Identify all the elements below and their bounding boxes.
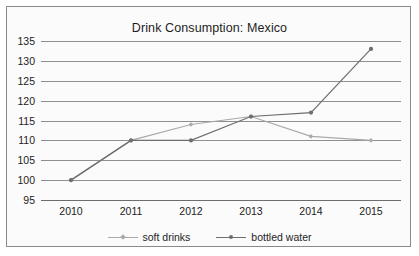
legend-label: bottled water [251,231,311,243]
x-tick-label: 2012 [179,205,202,217]
data-point [369,138,374,143]
data-point [129,138,133,142]
y-tick-label: 105 [17,154,35,166]
x-axis-line [41,200,401,201]
y-tick-label: 100 [17,174,35,186]
chart-title: Drink Consumption: Mexico [7,21,412,35]
data-point [309,134,314,139]
legend-swatch-icon [108,233,138,242]
data-point [189,122,194,127]
x-tick-label: 2013 [239,205,262,217]
chart-legend: soft drinksbottled water [7,231,412,243]
y-tick-label: 135 [17,35,35,47]
y-tick-label: 110 [18,134,35,146]
chart-container: Drink Consumption: Mexico 95100105110115… [6,6,411,247]
x-tick-label: 2010 [59,205,82,217]
data-point [309,110,313,114]
x-tick-label: 2014 [299,205,322,217]
x-tick-label: 2011 [120,205,143,217]
y-tick-label: 120 [17,95,35,107]
data-point [249,114,253,118]
legend-swatch-icon [216,233,246,242]
series-line [71,117,371,181]
series-lines [41,41,401,200]
series-line [71,49,371,180]
y-tick-label: 95 [23,194,35,206]
data-point [69,178,73,182]
y-tick-label: 125 [17,75,35,87]
legend-label: soft drinks [143,231,191,243]
x-tick-label: 2015 [359,205,382,217]
data-point [189,138,193,142]
data-point [369,47,373,51]
legend-item[interactable]: soft drinks [108,231,191,243]
y-tick-label: 115 [18,115,35,127]
plot-area: 95100105110115120125130135 [41,41,401,200]
y-tick-label: 130 [17,55,35,67]
legend-item[interactable]: bottled water [216,231,311,243]
